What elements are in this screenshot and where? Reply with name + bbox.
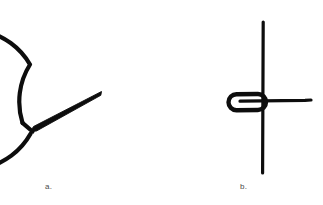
- panel-b-drawing: [229, 22, 312, 173]
- circle-outline: [0, 30, 30, 170]
- figure-container: a. b.: [0, 0, 323, 205]
- needle-pointer: [31, 92, 102, 132]
- panel-a-caption: a.: [45, 183, 52, 191]
- panel-a-drawing: [0, 30, 102, 170]
- figure-drawing: [0, 0, 323, 205]
- horizontal-line: [240, 100, 311, 101]
- panel-b-caption: b.: [240, 183, 247, 191]
